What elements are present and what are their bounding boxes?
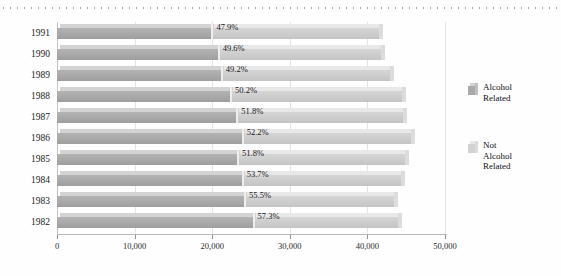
not-alcohol-related-swatch bbox=[468, 141, 478, 154]
x-axis-tick-label: 20,000 bbox=[201, 241, 224, 251]
bar-segment-alcohol-related[interactable] bbox=[57, 196, 244, 207]
bar-segment-alcohol-related[interactable] bbox=[57, 175, 242, 186]
x-axis-tick bbox=[367, 235, 368, 239]
bar-data-label: 53.7% bbox=[247, 169, 269, 179]
bar-row[interactable]: 53.7% bbox=[0, 171, 561, 192]
x-axis-tick-label: 50,000 bbox=[433, 241, 456, 251]
legend-item-not-alcohol-related[interactable]: Not Alcohol Related bbox=[468, 140, 512, 172]
legend-item-alcohol-related[interactable]: Alcohol Related bbox=[468, 82, 512, 103]
alcohol-related-swatch bbox=[468, 83, 478, 96]
bar-row[interactable]: 51.8% bbox=[0, 108, 561, 129]
x-axis-tick bbox=[57, 235, 58, 239]
bar-segment-alcohol-related[interactable] bbox=[57, 112, 236, 123]
segment-seam bbox=[221, 66, 223, 81]
bar-data-label: 51.8% bbox=[242, 148, 264, 158]
segment-seam bbox=[211, 24, 213, 39]
top-dotted-rule bbox=[0, 7, 561, 9]
x-axis-tick-label: 0 bbox=[55, 241, 59, 251]
bar-data-label: 50.2% bbox=[235, 85, 257, 95]
segment-seam bbox=[244, 192, 246, 207]
bar-row[interactable]: 49.6% bbox=[0, 45, 561, 66]
bar-segment-alcohol-related[interactable] bbox=[57, 154, 237, 165]
x-axis-tick-label: 40,000 bbox=[356, 241, 379, 251]
segment-seam bbox=[242, 129, 244, 144]
bar-data-label: 57.3% bbox=[258, 211, 280, 221]
x-axis-tick bbox=[290, 235, 291, 239]
legend-label-not-alcohol-related: Not Alcohol Related bbox=[483, 140, 512, 172]
x-axis-tick-label: 10,000 bbox=[123, 241, 146, 251]
segment-seam bbox=[242, 171, 244, 186]
segment-seam bbox=[218, 45, 220, 60]
bar-data-label: 47.9% bbox=[216, 22, 238, 32]
bar-segment-alcohol-related[interactable] bbox=[57, 49, 218, 60]
bar-segment-alcohol-related[interactable] bbox=[57, 217, 253, 228]
x-axis-tick-label: 30,000 bbox=[278, 241, 301, 251]
x-axis-tick bbox=[445, 235, 446, 239]
segment-seam bbox=[230, 87, 232, 102]
x-axis-tick bbox=[212, 235, 213, 239]
bar-segment-alcohol-related[interactable] bbox=[57, 91, 230, 102]
segment-seam bbox=[236, 108, 238, 123]
x-axis-tick bbox=[135, 235, 136, 239]
bar-data-label: 55.5% bbox=[249, 190, 271, 200]
bar-row[interactable]: 57.3% bbox=[0, 213, 561, 234]
bar-segment-alcohol-related[interactable] bbox=[57, 28, 211, 39]
x-axis-line bbox=[57, 234, 447, 235]
bar-segment-alcohol-related[interactable] bbox=[57, 70, 221, 81]
bar-data-label: 49.2% bbox=[226, 64, 248, 74]
segment-seam bbox=[253, 213, 255, 228]
legend-label-alcohol-related: Alcohol Related bbox=[483, 82, 512, 103]
bar-data-label: 51.8% bbox=[241, 106, 263, 116]
bar-row[interactable]: 47.9% bbox=[0, 24, 561, 45]
segment-seam bbox=[237, 150, 239, 165]
bar-data-label: 49.6% bbox=[223, 43, 245, 53]
bar-row[interactable]: 55.5% bbox=[0, 192, 561, 213]
bar-segment-alcohol-related[interactable] bbox=[57, 133, 242, 144]
bar-data-label: 52.2% bbox=[247, 127, 269, 137]
chart-root: 010,00020,00030,00040,00050,000 19911990… bbox=[0, 0, 561, 276]
